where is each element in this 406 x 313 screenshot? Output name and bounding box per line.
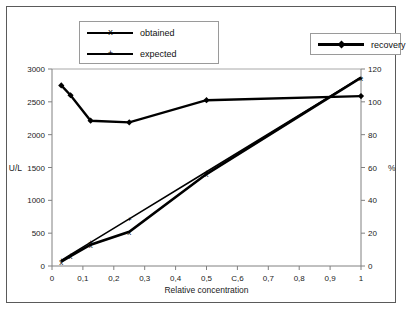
legend-item-recovery[interactable]: recovery	[311, 34, 400, 55]
data-point-obtained: x	[127, 228, 131, 237]
x-axis-tick-label: 0,9	[325, 274, 337, 283]
y-axis-left-tick-label: 1500	[27, 164, 45, 173]
data-point-recovery	[358, 93, 364, 99]
y-axis-left-tick-label: 3000	[27, 65, 45, 74]
legend-marker-glyph-obtained: x	[106, 28, 115, 37]
data-point-obtained: x	[59, 258, 63, 267]
line-marker-diamond-icon	[318, 39, 364, 51]
x-axis-title: Relative concentration	[164, 285, 248, 295]
data-point-recovery	[203, 97, 209, 103]
y-axis-left-tick-label: 0	[41, 262, 46, 271]
legend-item-expected[interactable]: + expected	[80, 43, 218, 64]
data-point-obtained: x	[69, 252, 73, 261]
y-axis-left-tick-label: 1000	[27, 196, 45, 205]
data-point-obtained: x	[359, 74, 363, 83]
y-axis-right-tick-label: 60	[368, 164, 377, 173]
y-axis-left-tick-label: 2000	[27, 131, 45, 140]
legend-label-expected: expected	[133, 49, 177, 59]
y-axis-left-title: U/L	[9, 163, 23, 173]
y-axis-right-tick-label: 80	[368, 131, 377, 140]
legend-item-obtained[interactable]: x obtained	[80, 22, 218, 43]
data-point-obtained: x	[205, 170, 209, 179]
y-axis-left-tick-label: 500	[32, 229, 46, 238]
line-marker-plus-icon: +	[87, 48, 133, 60]
series-line-recovery	[61, 85, 361, 122]
x-axis-tick-label: 0	[50, 274, 55, 283]
legend-series-right: recovery	[310, 33, 401, 55]
x-axis-tick-label: 1	[359, 274, 364, 283]
y-axis-right-tick-label: 100	[368, 98, 382, 107]
chart-frame: 0500100015002000250030000204060801001200…	[6, 6, 396, 303]
y-axis-right-tick-label: 0	[368, 262, 373, 271]
legend-label-obtained: obtained	[133, 28, 175, 38]
legend-label-recovery: recovery	[364, 40, 406, 50]
x-axis-tick-label: 0,4	[170, 274, 182, 283]
legend-marker-glyph-expected: +	[106, 49, 115, 58]
x-axis-tick-label: C,6	[231, 274, 244, 283]
x-axis-tick-label: 0,1	[77, 274, 89, 283]
x-axis-tick-label: 0,2	[108, 274, 120, 283]
y-axis-right-tick-label: 20	[368, 229, 377, 238]
x-axis-tick-label: 0,5	[201, 274, 213, 283]
y-axis-right-title: %	[388, 163, 396, 173]
y-axis-right-tick-label: 120	[368, 65, 382, 74]
data-point-expected: +	[127, 215, 132, 224]
x-axis-tick-label: 0,3	[139, 274, 151, 283]
y-axis-right-tick-label: 40	[368, 196, 377, 205]
legend-series-left: x obtained + expected	[79, 21, 219, 64]
y-axis-left-tick-label: 2500	[27, 98, 45, 107]
x-axis-tick-label: 0,8	[294, 274, 306, 283]
data-point-recovery	[126, 119, 132, 125]
line-marker-x-icon: x	[87, 27, 133, 39]
x-axis-tick-label: 0,7	[263, 274, 275, 283]
data-point-obtained: x	[89, 241, 93, 250]
